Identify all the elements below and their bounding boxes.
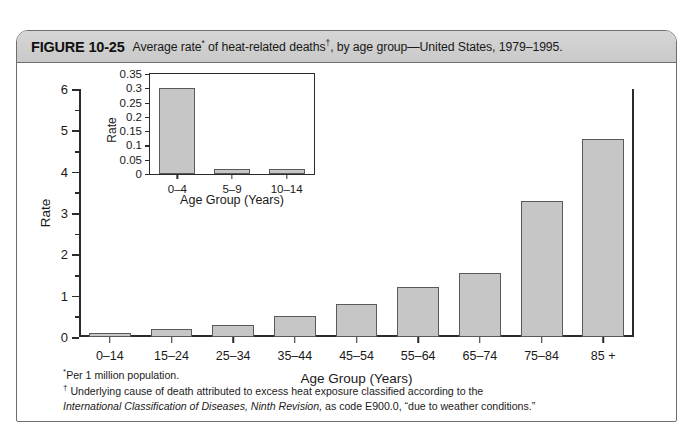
inset-bar (159, 88, 195, 174)
inset-y-tick-label: 0.2 (126, 111, 142, 123)
main-x-tick-label: 35–44 (277, 349, 312, 363)
main-y-tick (72, 296, 79, 298)
main-x-tick (171, 337, 173, 343)
main-x-tick-label: 15–24 (154, 349, 189, 363)
main-bar (274, 316, 316, 337)
inset-chart: Rate 00.050.10.150.20.250.30.35 0–45–910… (103, 73, 315, 203)
figure-title-part1: Average rate (133, 41, 202, 55)
main-y-axis-title: Rate (38, 199, 53, 228)
footnote-3-text: as code E900.0, “due to weather conditio… (322, 400, 535, 412)
inset-y-tick-label: 0.1 (126, 139, 142, 151)
main-bar (397, 287, 439, 337)
main-y-tick-label: 2 (61, 247, 68, 262)
main-y-tick-label: 3 (61, 206, 68, 221)
main-bar (521, 201, 563, 337)
main-bar-slot: 75–84 (511, 89, 573, 337)
main-x-tick (479, 337, 481, 343)
main-y-tick (72, 89, 79, 91)
main-bar (582, 139, 624, 337)
main-x-tick-label: 65–74 (462, 349, 497, 363)
footnote-3-italic: International Classification of Diseases… (63, 400, 322, 412)
footnote-line-1: *Per 1 million population. (63, 366, 662, 383)
inset-y-tick-label: 0 (136, 168, 142, 180)
main-x-tick-label: 75–84 (524, 349, 559, 363)
main-x-tick-label: 45–54 (339, 349, 374, 363)
main-bar (336, 304, 378, 337)
main-y-tick (72, 337, 79, 339)
main-y-tick (72, 130, 79, 132)
main-x-tick (232, 337, 234, 343)
main-x-tick (356, 337, 358, 343)
inset-y-tick-label: 0.15 (120, 125, 142, 137)
inset-y-tick-label: 0.05 (120, 154, 142, 166)
inset-bar-slot: 5–9 (205, 74, 260, 174)
main-y-tick (72, 254, 79, 256)
main-x-tick (109, 337, 111, 343)
inset-y-tick-label: 0.3 (126, 82, 142, 94)
inset-x-tick (231, 174, 232, 179)
figure-title-part3: , by age group—United States, 1979–1995. (330, 41, 563, 55)
main-bar (212, 325, 254, 337)
inset-x-axis-title: Age Group (Years) (149, 193, 315, 207)
main-y-tick (72, 213, 79, 215)
main-bar (151, 329, 193, 337)
main-x-tick-label: 85 + (591, 349, 616, 363)
inset-y-tick (145, 174, 150, 175)
inset-y-tick-label: 0.25 (120, 97, 142, 109)
inset-frame: 00.050.10.150.20.250.30.35 0–45–910–14 (149, 73, 315, 175)
figure-title-part2: of heat-related deaths (205, 41, 326, 55)
footnotes: *Per 1 million population. † Underlying … (63, 366, 662, 414)
main-x-tick (541, 337, 543, 343)
figure-number: FIGURE 10-25 (31, 39, 125, 55)
inset-y-axis-title: Rate (105, 118, 119, 143)
main-x-tick-label: 25–34 (216, 349, 251, 363)
main-x-tick (417, 337, 419, 343)
footnote-2-text: Underlying cause of death attributed to … (67, 385, 483, 397)
inset-x-tick (286, 174, 287, 179)
main-y-tick-label: 1 (61, 288, 68, 303)
main-y-tick-label: 6 (61, 82, 68, 97)
main-y-tick (72, 172, 79, 174)
figure-caption-bar: FIGURE 10-25 Average rate* of heat-relat… (17, 31, 676, 63)
main-y-tick-label: 5 (61, 123, 68, 138)
footnote-line-3: International Classification of Diseases… (63, 399, 662, 414)
main-bar-slot: 65–74 (449, 89, 511, 337)
main-x-tick (602, 337, 604, 343)
inset-bars-group: 0–45–910–14 (150, 74, 314, 174)
main-y-tick-label: 4 (61, 164, 68, 179)
figure-container: FIGURE 10-25 Average rate* of heat-relat… (16, 30, 677, 422)
main-bar (459, 273, 501, 337)
main-bar-slot: 45–54 (326, 89, 388, 337)
inset-bar-slot: 10–14 (259, 74, 314, 174)
inset-x-tick (177, 174, 178, 179)
main-bar-slot: 85 + (572, 89, 634, 337)
figure-title: Average rate* of heat-related deaths†, b… (133, 38, 563, 54)
footnote-line-2: † Underlying cause of death attributed t… (63, 382, 662, 399)
footnote-1-text: Per 1 million population. (66, 368, 179, 380)
main-x-tick-label: 55–64 (401, 349, 436, 363)
main-x-tick (294, 337, 296, 343)
inset-bar-slot: 0–4 (150, 74, 205, 174)
main-y-tick-label: 0 (61, 330, 68, 345)
main-bar-slot: 55–64 (387, 89, 449, 337)
main-x-tick-label: 0–14 (96, 349, 124, 363)
inset-y-tick-label: 0.35 (120, 68, 142, 80)
